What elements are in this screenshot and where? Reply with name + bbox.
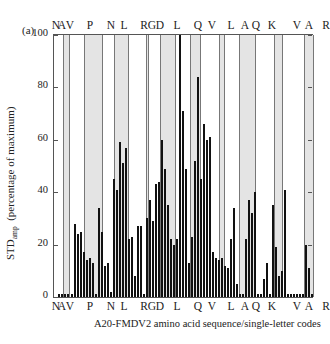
bar <box>119 142 121 297</box>
bar <box>140 226 142 297</box>
y-tick-mark <box>54 140 58 141</box>
y-axis-label: STDamp (percentage of maximum) <box>4 107 19 260</box>
bar <box>182 111 184 297</box>
y-tick-mark-right <box>308 87 312 88</box>
bar <box>269 294 271 297</box>
bar <box>167 205 169 297</box>
bar <box>275 247 277 297</box>
bar <box>158 182 160 297</box>
bar <box>71 294 73 297</box>
bar <box>230 239 232 297</box>
residue-label: A <box>305 19 313 31</box>
bar <box>116 190 118 297</box>
bar <box>212 252 214 297</box>
residue-label: Q <box>252 19 260 31</box>
bar <box>113 179 115 297</box>
bar <box>203 124 205 297</box>
residue-label: A <box>305 300 313 312</box>
bar <box>125 148 127 297</box>
y-tick-label: 0 <box>18 289 48 300</box>
bar <box>266 263 268 297</box>
y-tick-mark-right <box>308 140 312 141</box>
residue-label: Q <box>194 19 202 31</box>
y-tick-label: 80 <box>18 79 48 90</box>
residue-label: N <box>107 300 115 312</box>
bar <box>95 294 97 297</box>
residue-label: A <box>241 19 249 31</box>
bar <box>206 140 208 297</box>
residue-label: L <box>173 19 180 31</box>
bar <box>257 294 259 297</box>
bar <box>248 200 250 297</box>
bar <box>146 218 148 297</box>
bar <box>137 226 139 297</box>
bar <box>185 169 187 297</box>
bar <box>197 77 199 297</box>
bar <box>251 213 253 297</box>
bar <box>98 208 100 297</box>
bar <box>221 258 223 297</box>
residue-label: V <box>66 19 74 31</box>
bar <box>92 263 94 297</box>
residue-label: N <box>107 19 115 31</box>
bar <box>254 192 256 297</box>
residue-label: K <box>268 300 276 312</box>
residue-label: V <box>293 19 301 31</box>
bar <box>239 294 241 297</box>
residue-label: V <box>208 19 216 31</box>
y-tick-label: 60 <box>18 132 48 143</box>
y-tick-mark <box>54 245 58 246</box>
bar <box>74 224 76 297</box>
bar <box>110 292 112 297</box>
residue-label: R <box>140 300 148 312</box>
residue-label: R <box>322 300 330 312</box>
residue-label: L <box>120 300 127 312</box>
bar <box>299 294 301 297</box>
residue-label: R <box>140 19 148 31</box>
bar <box>293 294 295 297</box>
bar <box>173 245 175 297</box>
bottom-sequence-labels: NAVPNLRGDLQVLAQKVART <box>53 300 313 314</box>
bar <box>80 232 82 298</box>
bar <box>101 232 103 298</box>
residue-label: K <box>268 19 276 31</box>
bar <box>308 268 310 297</box>
y-axis-label-rest: (percentage of maximum) <box>4 107 16 221</box>
bar <box>194 161 196 297</box>
bar <box>188 263 190 297</box>
bar <box>104 266 106 297</box>
y-tick-mark-right <box>308 192 312 193</box>
y-tick-mark-right <box>308 297 312 298</box>
bar <box>161 140 163 297</box>
residue-label: D <box>156 300 164 312</box>
bar <box>179 35 181 297</box>
bar <box>155 184 157 297</box>
y-tick-mark <box>54 297 58 298</box>
bar <box>61 294 63 297</box>
y-tick-mark <box>54 192 58 193</box>
bar <box>122 163 124 297</box>
bar <box>143 294 145 297</box>
bar <box>77 234 79 297</box>
y-tick-label: 40 <box>18 184 48 195</box>
residue-label: V <box>66 300 74 312</box>
y-tick-label: 100 <box>18 27 48 38</box>
bar <box>296 294 298 297</box>
bar <box>272 205 274 297</box>
bar <box>67 294 69 297</box>
bar <box>263 279 265 297</box>
bar <box>305 245 307 297</box>
bar <box>131 237 133 297</box>
bar <box>128 239 130 297</box>
bar <box>245 239 247 297</box>
bar <box>149 200 151 297</box>
bar <box>281 271 283 297</box>
bar <box>58 294 60 297</box>
bar <box>170 239 172 297</box>
residue-label: Q <box>194 300 202 312</box>
residue-label: L <box>120 19 127 31</box>
bar <box>89 258 91 297</box>
bar <box>218 260 220 297</box>
bar <box>191 237 193 297</box>
bar <box>64 294 66 297</box>
